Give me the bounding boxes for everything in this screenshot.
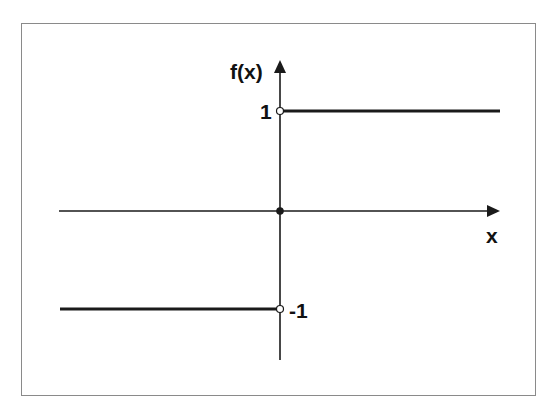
open-endpoint-upper: [277, 108, 284, 115]
y-axis-label: f(x): [230, 60, 263, 83]
tick-label-minus-1: -1: [289, 299, 308, 322]
x-axis-arrow-icon: [487, 205, 500, 217]
y-axis-arrow-icon: [274, 60, 286, 73]
origin-dot: [276, 207, 284, 215]
x-axis-label: x: [486, 224, 498, 247]
open-endpoint-lower: [277, 306, 284, 313]
sign-function-plot: f(x) x 1 -1: [0, 0, 553, 414]
tick-label-1: 1: [260, 100, 272, 123]
